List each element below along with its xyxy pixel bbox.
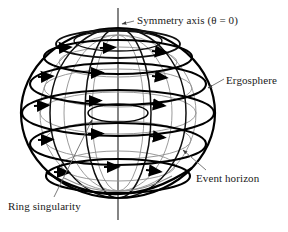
label-symmetry-axis: Symmetry axis (θ = 0) [137, 14, 238, 26]
kerr-black-hole-figure: Symmetry axis (θ = 0) Ergosphere Event h… [0, 0, 288, 232]
leader-ergosphere [208, 79, 224, 88]
diagram-canvas [0, 0, 288, 232]
label-ring-singularity: Ring singularity [8, 200, 81, 212]
label-event-horizon: Event horizon [196, 172, 259, 184]
label-ergosphere: Ergosphere [226, 74, 277, 86]
leader-symmetry-axis [122, 21, 134, 24]
